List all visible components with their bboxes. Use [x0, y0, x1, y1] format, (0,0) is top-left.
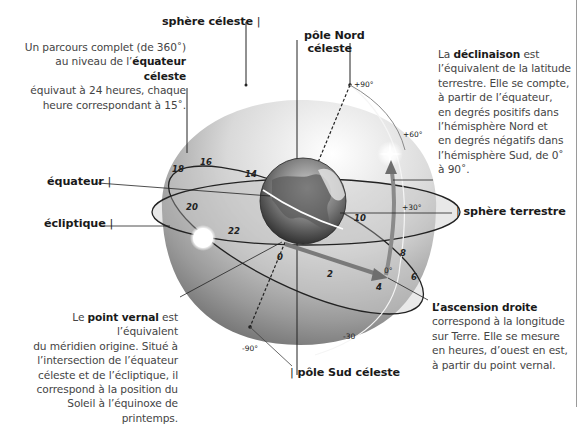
- svg-text:+30°: +30°: [402, 203, 422, 212]
- text-declinaison: La déclinaison est l’équivalent de la la…: [438, 47, 573, 177]
- svg-text:-30: -30: [343, 332, 355, 341]
- svg-text:4: 4: [375, 282, 382, 292]
- label-ecliptique: écliptique |: [44, 217, 113, 230]
- svg-text:0°: 0°: [384, 266, 393, 275]
- label-pole-nord: pôle Nord céleste: [304, 29, 352, 55]
- svg-text:-90°: -90°: [242, 344, 258, 353]
- svg-text:20: 20: [186, 202, 198, 212]
- svg-text:10: 10: [354, 213, 366, 223]
- svg-text:+90°: +90°: [354, 80, 374, 89]
- svg-text:14: 14: [245, 169, 257, 179]
- svg-text:22: 22: [228, 226, 240, 236]
- text-point-vernal: Le point vernal est l’équivalent du méri…: [10, 310, 178, 425]
- label-sphere-celeste: sphère céleste |: [162, 15, 261, 28]
- label-equateur: équateur |: [47, 175, 111, 188]
- text-ascension-droite: L’ascension droite correspond à la longi…: [432, 300, 572, 372]
- svg-text:6: 6: [411, 272, 417, 282]
- label-pole-sud: | pôle Sud céleste: [290, 366, 400, 379]
- svg-text:0: 0: [277, 252, 283, 262]
- svg-text:18: 18: [172, 164, 184, 174]
- svg-text:2: 2: [327, 269, 333, 279]
- text-parcours-complet: Un parcours complet (de 360˚) au niveau …: [18, 40, 186, 112]
- svg-text:+60°: +60°: [403, 130, 423, 139]
- right-border: [576, 0, 577, 407]
- label-sphere-terrestre: | sphère terrestre: [456, 205, 566, 218]
- svg-text:16: 16: [200, 157, 212, 167]
- svg-text:8: 8: [400, 248, 406, 258]
